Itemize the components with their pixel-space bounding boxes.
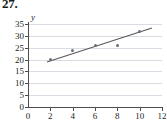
figure-container: 27. 05101520253035 024681012 y [0,0,167,125]
scatter-plot: 05101520253035 024681012 y [0,0,167,125]
data-point [116,44,119,47]
data-point [49,58,52,61]
trend-line [47,28,152,62]
data-point [138,30,141,33]
data-point [71,49,74,52]
trend-line-svg [0,0,167,125]
data-point [94,44,97,47]
